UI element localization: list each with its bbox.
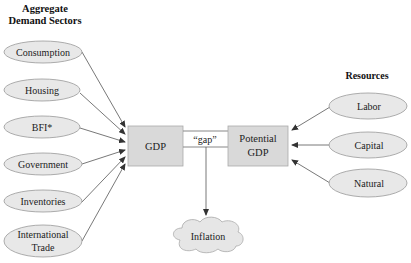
svg-text:International: International bbox=[17, 229, 68, 240]
heading-aggregate: Aggregate bbox=[22, 3, 68, 14]
svg-text:Labor: Labor bbox=[357, 101, 382, 112]
svg-text:Consumption: Consumption bbox=[16, 47, 70, 58]
arrow-international-trade bbox=[82, 164, 125, 241]
svg-text:Capital: Capital bbox=[355, 140, 384, 151]
resource-labor: Labor bbox=[329, 93, 407, 119]
svg-text:Potential: Potential bbox=[239, 133, 276, 144]
resource-arrows bbox=[292, 107, 330, 183]
demand-sector-bfi: BFI* bbox=[4, 116, 80, 138]
svg-text:Trade: Trade bbox=[32, 242, 56, 253]
gap-label: “gap” bbox=[193, 134, 216, 145]
potential-gdp-box: Potential bbox=[228, 126, 288, 166]
heading-demand-sectors: Demand Sectors bbox=[8, 15, 81, 26]
economy-diagram: Aggregate Demand Sectors Resources Consu… bbox=[0, 0, 411, 263]
gap-connector: “gap” bbox=[183, 131, 228, 147]
svg-text:GDP: GDP bbox=[145, 141, 166, 152]
demand-arrows bbox=[80, 52, 125, 241]
inflation-cloud: Inflation bbox=[173, 217, 243, 253]
heading-resources: Resources bbox=[345, 70, 388, 81]
arrow-bfi bbox=[80, 128, 125, 142]
demand-sector-consumption: Consumption bbox=[4, 41, 82, 63]
arrow-government bbox=[82, 150, 125, 164]
arrow-inventories bbox=[82, 157, 125, 202]
resource-capital: Capital bbox=[329, 132, 407, 158]
demand-sector-housing: Housing bbox=[4, 79, 80, 101]
svg-text:BFI*: BFI* bbox=[32, 122, 53, 133]
potential-gdp-label-line2: GDP bbox=[247, 147, 268, 158]
arrow-housing bbox=[80, 93, 125, 134]
arrow-natural bbox=[292, 160, 330, 183]
arrow-labor bbox=[292, 107, 330, 130]
arrow-consumption bbox=[82, 52, 125, 127]
svg-text:Natural: Natural bbox=[354, 178, 384, 189]
demand-sector-inventories: Inventories bbox=[4, 190, 82, 212]
svg-text:Inventories: Inventories bbox=[21, 196, 66, 207]
demand-sector-government: Government bbox=[4, 153, 82, 175]
gdp-box: GDP bbox=[128, 126, 183, 166]
svg-text:Housing: Housing bbox=[25, 85, 59, 96]
resource-natural: Natural bbox=[329, 169, 407, 197]
svg-text:Inflation: Inflation bbox=[191, 231, 225, 242]
demand-sector-international-trade: International Trade bbox=[4, 225, 82, 257]
svg-text:Government: Government bbox=[18, 159, 68, 170]
